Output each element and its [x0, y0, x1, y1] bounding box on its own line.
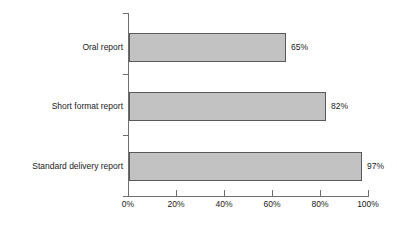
- y-axis-tick: [123, 74, 128, 75]
- value-label-oral-report: 65%: [291, 42, 308, 52]
- value-label-standard-delivery-report: 97%: [367, 161, 384, 171]
- x-axis-tick: [368, 190, 369, 196]
- y-axis-tick: [123, 135, 128, 136]
- x-axis-tick: [272, 190, 273, 196]
- bar-short-format-report: [129, 92, 326, 121]
- category-label-standard-delivery-report: Standard delivery report: [32, 161, 123, 171]
- x-tick-label-20: 20%: [167, 199, 184, 209]
- x-axis-tick: [176, 190, 177, 196]
- category-label-short-format-report: Short format report: [52, 101, 123, 111]
- value-label-short-format-report: 82%: [331, 101, 348, 111]
- x-tick-label-40: 40%: [215, 199, 232, 209]
- category-label-oral-report: Oral report: [82, 42, 123, 52]
- x-tick-label-100: 100%: [357, 199, 379, 209]
- x-axis-tick: [320, 190, 321, 196]
- x-tick-label-80: 80%: [311, 199, 328, 209]
- x-axis-line: [128, 196, 369, 197]
- bar-chart: Oral report Short format report Standard…: [0, 0, 397, 227]
- y-axis-tick: [123, 196, 128, 197]
- bar-standard-delivery-report: [129, 152, 362, 181]
- bar-oral-report: [129, 33, 286, 62]
- x-axis-tick: [224, 190, 225, 196]
- x-axis-tick: [128, 190, 129, 196]
- y-axis-tick: [123, 13, 128, 14]
- x-tick-label-60: 60%: [263, 199, 280, 209]
- x-tick-label-0: 0%: [122, 199, 134, 209]
